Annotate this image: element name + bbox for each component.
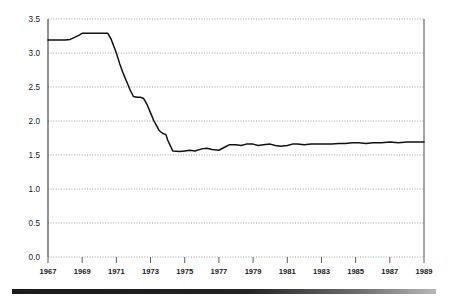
y-tick-label: 0.5 [29, 219, 41, 228]
x-tick-label: 1967 [40, 267, 57, 276]
y-tick-label: 2.0 [29, 117, 41, 126]
axis-tickmarks [48, 257, 424, 263]
y-tick-label: 3.5 [29, 15, 41, 24]
x-tick-label: 1977 [210, 267, 227, 276]
gridlines [48, 19, 424, 257]
line-chart: 3.53.02.52.01.51.00.50.0 196719691971197… [0, 0, 451, 298]
x-tick-label: 1981 [279, 267, 297, 276]
y-tick-label: 1.0 [29, 185, 41, 194]
x-tick-label: 1969 [74, 267, 91, 276]
y-tick-label: 0.0 [29, 253, 41, 262]
chart-figure: 3.53.02.52.01.51.00.50.0 196719691971197… [0, 0, 451, 298]
x-tick-label: 1987 [381, 267, 398, 276]
y-axis-tick-labels: 3.53.02.52.01.51.00.50.0 [29, 15, 41, 262]
y-tick-label: 1.5 [29, 151, 41, 160]
x-tick-label: 1983 [313, 267, 330, 276]
data-series-line [48, 33, 424, 151]
y-tick-label: 2.5 [29, 83, 41, 92]
x-tick-label: 1985 [347, 267, 365, 276]
x-tick-label: 1973 [142, 267, 159, 276]
x-tick-label: 1971 [108, 267, 126, 276]
y-tick-label: 3.0 [29, 49, 41, 58]
x-tick-label: 1979 [245, 267, 262, 276]
footer-rule-bar [12, 289, 436, 294]
x-axis-tick-labels: 1967196919711973197519771979198119831985… [40, 267, 433, 276]
x-tick-label: 1989 [416, 267, 433, 276]
x-tick-label: 1975 [176, 267, 194, 276]
